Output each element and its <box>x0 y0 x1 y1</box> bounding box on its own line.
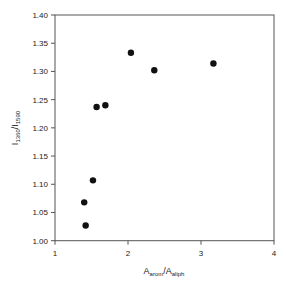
data-point-marker <box>102 102 108 108</box>
y-tick-label: 1.25 <box>32 96 48 105</box>
y-tick-label: 1.30 <box>32 67 48 76</box>
y-tick-label: 1.10 <box>32 180 48 189</box>
x-tick-label: 2 <box>126 249 131 258</box>
y-tick-label: 1.40 <box>32 11 48 20</box>
scatter-chart: 1.001.051.101.151.201.251.301.351.40 123… <box>0 0 286 288</box>
data-point-marker <box>128 50 134 56</box>
y-tick-label: 1.35 <box>32 39 48 48</box>
y-tick-label: 1.20 <box>32 124 48 133</box>
data-point-marker <box>82 222 88 228</box>
y-tick-label: 1.00 <box>32 237 48 246</box>
x-tick-label: 4 <box>272 249 277 258</box>
y-tick-label: 1.15 <box>32 152 48 161</box>
y-axis-ticks: 1.001.051.101.151.201.251.301.351.40 <box>32 11 55 246</box>
data-point-marker <box>210 60 216 66</box>
y-tick-label: 1.05 <box>32 208 48 217</box>
data-point-marker <box>151 67 157 73</box>
plot-frame <box>55 15 274 241</box>
x-axis-label: Aarom/Aaliph <box>144 266 185 277</box>
x-tick-label: 1 <box>53 249 58 258</box>
data-points <box>81 50 217 229</box>
x-tick-label: 3 <box>199 249 204 258</box>
data-point-marker <box>81 199 87 205</box>
plot-border <box>55 15 274 241</box>
data-point-marker <box>90 177 96 183</box>
data-point-marker <box>93 104 99 110</box>
x-axis-ticks: 1234 <box>53 241 277 258</box>
y-axis-label: I1360/I1590 <box>10 110 21 145</box>
